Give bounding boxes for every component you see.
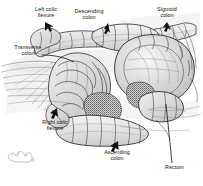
- label-left-colic-flexure: Left colic flexure: [27, 6, 65, 18]
- anatomy-figure: Left colic flexure Descending colon Sigm…: [0, 0, 203, 186]
- label-transverse-colon: Transverse colon: [6, 44, 50, 56]
- label-rectum: Rectum: [165, 164, 197, 170]
- label-descending-colon: Descending colon: [66, 8, 112, 20]
- label-right-colic-flexure: Right colic flexure: [33, 119, 77, 131]
- label-sigmoid-colon: Sigmoid colon: [146, 6, 188, 18]
- label-ascending-colon: Ascending colon: [93, 149, 141, 161]
